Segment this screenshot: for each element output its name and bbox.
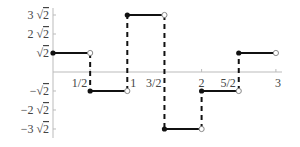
step-function-chart: 3 √22 √2√2−√2−2 √2−3 √21/213/225/23	[0, 0, 300, 147]
open-endpoint	[162, 12, 167, 17]
closed-endpoint	[199, 88, 204, 93]
x-tick-label: 3	[275, 76, 281, 90]
x-tick-label: 3/2	[146, 76, 161, 90]
x-tick-label: 1	[130, 76, 136, 90]
y-tick-label: −3 √2	[21, 122, 49, 136]
closed-endpoint	[88, 88, 93, 93]
closed-endpoint	[125, 12, 130, 17]
open-endpoint	[273, 50, 278, 55]
closed-endpoint	[50, 50, 55, 55]
open-endpoint	[199, 126, 204, 131]
y-tick-label: −2 √2	[21, 103, 49, 117]
y-tick-label: √2	[36, 46, 49, 60]
closed-endpoint	[236, 50, 241, 55]
x-tick-label: 1/2	[72, 76, 87, 90]
x-tick-label: 2	[199, 76, 205, 90]
open-endpoint	[125, 88, 130, 93]
y-tick-label: 2 √2	[27, 27, 49, 41]
y-tick-label: −√2	[30, 84, 49, 98]
x-tick-label: 5/2	[220, 76, 235, 90]
closed-endpoint	[162, 126, 167, 131]
axes	[53, 8, 282, 138]
open-endpoint	[236, 88, 241, 93]
open-endpoint	[88, 50, 93, 55]
y-tick-label: 3 √2	[27, 8, 49, 22]
